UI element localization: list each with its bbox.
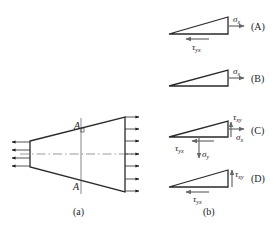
- option-label-d: (D): [251, 173, 265, 185]
- caption-a: (a): [73, 206, 84, 218]
- svg-text:σx: σx: [236, 132, 243, 143]
- svg-text:τyx: τyx: [175, 143, 184, 154]
- svg-text:τyx: τyx: [193, 194, 202, 205]
- diagram-canvas: A A (a) σx τyx (A) σx (B) τxy σx τyx σy …: [0, 0, 279, 228]
- figure-a-tapered-bar: A A (a): [12, 117, 139, 218]
- svg-text:τxy: τxy: [233, 112, 242, 123]
- svg-text:σx: σx: [233, 14, 240, 25]
- svg-text:σy: σy: [202, 149, 209, 160]
- option-b-element[interactable]: σx (B): [169, 66, 264, 86]
- caption-b: (b): [203, 206, 215, 218]
- right-load-arrows-icon: [125, 117, 139, 191]
- option-c-element[interactable]: τxy σx τyx σy (C): [169, 112, 264, 160]
- option-d-element[interactable]: τxy τyx (D): [169, 169, 265, 205]
- section-label-bottom: A: [72, 181, 80, 192]
- option-label-a: (A): [251, 21, 265, 33]
- svg-text:τxy: τxy: [235, 169, 244, 180]
- section-label-top: A: [73, 120, 81, 131]
- svg-text:σx: σx: [233, 66, 240, 77]
- option-label-c: (C): [251, 125, 264, 137]
- svg-text:τyx: τyx: [192, 42, 201, 53]
- option-label-b: (B): [251, 73, 264, 85]
- option-a-element[interactable]: σx τyx (A): [169, 14, 265, 53]
